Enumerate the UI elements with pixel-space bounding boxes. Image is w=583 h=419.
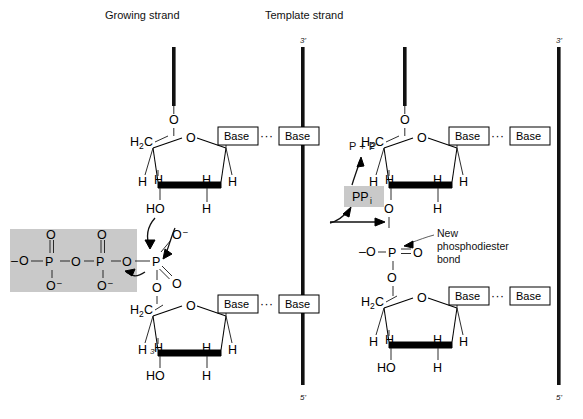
h2c-c: C bbox=[144, 135, 153, 149]
right-top-bridge-oxygen: O bbox=[400, 113, 410, 127]
growing-strand-title: Growing strand bbox=[105, 9, 180, 21]
p-beta: P bbox=[45, 255, 53, 269]
right-upper-3prime-o: O bbox=[384, 202, 394, 216]
right-template-5prime: 5' bbox=[556, 393, 562, 402]
svg-text:C: C bbox=[375, 295, 384, 309]
svg-text:Base: Base bbox=[285, 298, 310, 310]
right-lower-3prime-oh: HO bbox=[377, 361, 396, 375]
svg-text:H: H bbox=[433, 202, 442, 216]
o-alpha2-bottom: O bbox=[97, 279, 107, 293]
annotation-line-2: phosphodiester bbox=[437, 240, 509, 252]
o-term-right: O bbox=[366, 245, 376, 259]
svg-text:H: H bbox=[138, 343, 147, 357]
left-template-3prime: 3' bbox=[300, 36, 306, 45]
left-top-bridge-oxygen: O bbox=[169, 113, 179, 127]
diagram-canvas: { "title_labels": { "growing_strand": "G… bbox=[0, 0, 583, 419]
svg-text:H: H bbox=[459, 175, 468, 189]
phosphodiester-leader bbox=[410, 235, 434, 243]
h-right-outer: H bbox=[228, 175, 237, 189]
ring-oxygen-upper-right: O bbox=[417, 131, 427, 145]
p-alpha2: P bbox=[96, 255, 104, 269]
svg-text:H: H bbox=[433, 333, 442, 347]
hbond-dots-4: ··· bbox=[491, 289, 505, 303]
right-growing-backbone bbox=[403, 47, 407, 106]
svg-text:H: H bbox=[459, 335, 468, 349]
o-beta-top: O bbox=[46, 228, 56, 242]
left-lower-3prime-oh: HO bbox=[146, 369, 165, 383]
ring-oxygen-lower-right: O bbox=[417, 291, 427, 305]
hbond-dots-1: ··· bbox=[260, 129, 274, 143]
svg-text:H: H bbox=[433, 173, 442, 187]
base-pair-upper-left: Base ··· Base bbox=[218, 127, 319, 145]
annotation-line-3: bond bbox=[437, 253, 461, 265]
svg-text:H: H bbox=[369, 335, 378, 349]
ring-oxygen-upper-left: O bbox=[186, 131, 196, 145]
svg-text:C: C bbox=[375, 135, 384, 149]
p-new: P bbox=[388, 246, 396, 260]
svg-text:Base: Base bbox=[224, 298, 249, 310]
svg-text:H: H bbox=[369, 175, 378, 189]
svg-text:H: H bbox=[202, 369, 211, 383]
ppi-label: PP bbox=[352, 190, 369, 204]
ring-oxygen-lower-left: O bbox=[186, 299, 196, 313]
template-strand-title: Template strand bbox=[265, 9, 343, 21]
base-pair-lower-left: Base ··· Base bbox=[218, 295, 319, 313]
left-growing-backbone bbox=[172, 47, 176, 106]
svg-text:Base: Base bbox=[224, 130, 249, 142]
hbond-dots-3: ··· bbox=[491, 129, 505, 143]
svg-text:H: H bbox=[385, 173, 394, 187]
h-bottom-right: H bbox=[202, 202, 211, 216]
left-sugar-3prime-label: 3' bbox=[150, 347, 156, 356]
left-upper-3prime-oh: HO bbox=[146, 202, 165, 216]
svg-text:H: H bbox=[228, 343, 237, 357]
svg-text:i: i bbox=[370, 196, 372, 206]
annotation-line-1: New bbox=[437, 227, 458, 239]
reaction-diagram: Growing strand Template strand 3' 5' O H… bbox=[0, 0, 583, 419]
svg-text:–: – bbox=[183, 227, 188, 237]
svg-text:H: H bbox=[361, 135, 370, 149]
o-new-double: O bbox=[413, 246, 423, 260]
svg-text:H: H bbox=[130, 303, 139, 317]
svg-text:Base: Base bbox=[516, 290, 541, 302]
left-template-5prime: 5' bbox=[300, 393, 306, 402]
h2c-h: H bbox=[130, 135, 139, 149]
left-template-backbone bbox=[301, 47, 305, 385]
alpha-phosphate: P O – O O bbox=[152, 227, 188, 304]
base-pair-upper-right: Base ··· Base bbox=[449, 127, 550, 145]
svg-text:–: – bbox=[57, 278, 62, 288]
o-bridge-2: O bbox=[122, 255, 132, 269]
new-phosphodiester-phosphate: – O P O O bbox=[359, 217, 423, 296]
svg-text:Base: Base bbox=[455, 130, 480, 142]
minus-1: – bbox=[11, 254, 18, 268]
p-alpha: P bbox=[152, 255, 160, 269]
right-template-backbone bbox=[557, 47, 561, 385]
svg-text:Base: Base bbox=[516, 130, 541, 142]
o-term-left: O bbox=[19, 254, 29, 268]
svg-text:–: – bbox=[108, 278, 113, 288]
h-left-inner: H bbox=[154, 173, 163, 187]
o-bridge-1: O bbox=[71, 255, 81, 269]
svg-text:H: H bbox=[385, 333, 394, 347]
o-beta-bottom: O bbox=[46, 279, 56, 293]
o-alpha-ester: O bbox=[152, 281, 162, 295]
o-alpha-double: O bbox=[172, 277, 182, 291]
svg-text:Base: Base bbox=[455, 290, 480, 302]
svg-text:H: H bbox=[433, 361, 442, 375]
h-left-outer: H bbox=[138, 175, 147, 189]
base-pair-lower-right: Base ··· Base bbox=[449, 287, 550, 305]
h-right-inner: H bbox=[202, 173, 211, 187]
minus-right: – bbox=[359, 245, 366, 259]
svg-text:C: C bbox=[144, 303, 153, 317]
svg-text:H: H bbox=[361, 295, 370, 309]
right-template-3prime: 3' bbox=[556, 36, 562, 45]
o-new-ester: O bbox=[387, 271, 397, 285]
hbond-dots-2: ··· bbox=[260, 297, 274, 311]
o-alpha2-top: O bbox=[97, 228, 107, 242]
svg-text:Base: Base bbox=[285, 130, 310, 142]
svg-text:H: H bbox=[202, 341, 211, 355]
